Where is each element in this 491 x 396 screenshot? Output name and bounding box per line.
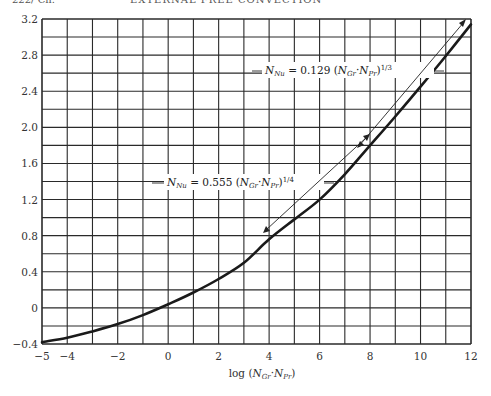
x-tick-label: 0 — [165, 350, 172, 362]
x-tick-label: 10 — [414, 350, 427, 362]
y-tick-label: 1.2 — [21, 194, 38, 206]
x-tick-label: 6 — [316, 350, 323, 362]
y-tick-label: 0.4 — [21, 266, 38, 278]
x-axis-label: log (NGr·NPr) — [229, 367, 296, 381]
x-tick-label: 8 — [367, 350, 374, 362]
y-tick-label: 2.8 — [21, 49, 38, 61]
y-axis-ticks: −0.400.40.81.21.62.02.42.83.2 — [13, 13, 39, 350]
x-tick-label: −2 — [110, 350, 125, 362]
y-tick-label: −0.4 — [13, 338, 39, 350]
y-tick-label: 2.0 — [21, 121, 38, 133]
x-tick-label: −4 — [59, 350, 75, 362]
arrowhead-icon — [459, 19, 466, 27]
x-axis-ticks: −5−4−2024681012 — [34, 350, 477, 362]
y-tick-label: 0.8 — [21, 230, 38, 242]
y-tick-label: 0 — [31, 302, 38, 314]
x-tick-label: −5 — [34, 350, 49, 362]
x-tick-label: 12 — [464, 350, 477, 362]
y-tick-label: 3.2 — [21, 13, 38, 25]
annotation-turbulent: NNu = 0.129 (NGr·NPr)1/3 — [252, 19, 466, 148]
y-tick-label: 2.4 — [21, 85, 38, 97]
chart: −0.400.40.81.21.62.02.42.83.2 −5−4−20246… — [0, 0, 491, 396]
arrowhead-icon — [357, 141, 364, 148]
x-tick-label: 2 — [215, 350, 222, 362]
y-tick-label: 1.6 — [21, 157, 38, 169]
x-tick-label: 4 — [266, 350, 273, 362]
